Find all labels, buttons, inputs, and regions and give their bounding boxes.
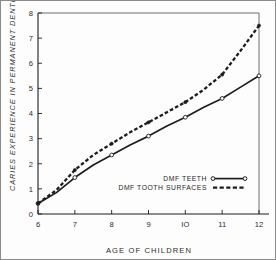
x-tick-label: 7: [73, 220, 77, 229]
y-tick-label: 0: [29, 210, 33, 219]
x-tick-label: IO: [181, 220, 189, 229]
y-tick-label: 4: [29, 109, 33, 118]
x-tick-label: 9: [146, 220, 150, 229]
legend-label-0: DMF TEETH: [163, 175, 207, 182]
legend-label-1: DMF TOOTH SURFACES: [118, 184, 207, 191]
legend-swatch-dmf-teeth: [211, 177, 247, 181]
y-axis-tick-labels: 012345678: [29, 9, 33, 219]
series-line: [38, 26, 259, 204]
data-point: [73, 168, 76, 171]
x-tick-label: 6: [36, 220, 40, 229]
x-axis-ticks: [38, 210, 259, 214]
x-tick-label: 12: [255, 220, 263, 229]
data-point: [110, 153, 114, 157]
y-tick-label: 2: [29, 160, 33, 169]
y-tick-label: 6: [29, 59, 33, 68]
x-axis-tick-labels: 6789IO1112: [36, 220, 263, 229]
data-point: [183, 115, 187, 119]
data-point: [147, 121, 150, 124]
data-point: [221, 73, 224, 76]
x-tick-label: 11: [218, 220, 226, 229]
data-point: [36, 202, 39, 205]
y-tick-label: 3: [29, 134, 33, 143]
y-axis-title: CARIES EXPERIENCE IN PERMANENT DENTITION: [8, 1, 17, 191]
y-tick-label: 1: [29, 185, 33, 194]
y-tick-label: 5: [29, 84, 33, 93]
x-axis-title: AGE OF CHILDREN: [106, 246, 192, 255]
data-point: [257, 74, 261, 78]
data-point: [257, 24, 260, 27]
y-tick-label: 8: [29, 9, 33, 18]
y-axis-ticks: [38, 13, 42, 214]
data-point: [110, 142, 113, 145]
data-point: [147, 134, 151, 138]
data-point: [184, 101, 187, 104]
data-point: [73, 176, 77, 180]
y-tick-label: 7: [29, 34, 33, 43]
x-tick-label: 8: [110, 220, 114, 229]
caries-experience-line-chart: 012345678 6789IO1112 CARIES EXPERIENCE I…: [1, 1, 276, 260]
figure-frame: 012345678 6789IO1112 CARIES EXPERIENCE I…: [0, 0, 276, 260]
data-point: [220, 97, 224, 101]
chart-legend: DMF TEETH DMF TOOTH SURFACES: [118, 175, 246, 191]
